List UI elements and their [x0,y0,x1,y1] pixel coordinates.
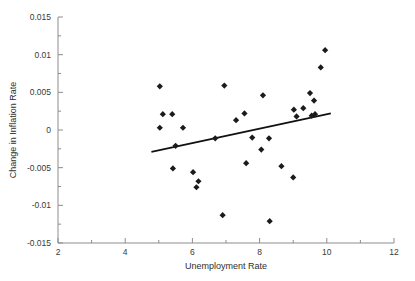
data-point-marker [241,110,247,116]
x-tick-label: 8 [257,247,262,257]
plot-canvas: 0.0150.010.0050-0.005-0.01-0.01524681012… [0,0,415,281]
data-point-marker [220,212,226,218]
data-point-marker [290,174,296,180]
data-point-marker [293,113,299,119]
data-point-marker [291,107,297,113]
data-point-marker [260,92,266,98]
data-point-marker [157,83,163,89]
axis-spines [58,17,394,243]
data-point-marker [322,47,328,53]
data-point-marker [195,178,201,184]
y-tick-label: 0 [46,125,51,135]
x-axis-title: Unemployment Rate [185,261,267,271]
y-tick-label: -0.005 [27,163,51,173]
data-point-marker [267,218,273,224]
data-point-marker [258,146,264,152]
y-tick-label: 0.015 [30,12,52,22]
y-axis-title: Change in Inflation Rate [8,82,18,179]
y-tick-label: -0.01 [32,200,52,210]
data-point-marker [278,163,284,169]
data-point-marker [193,184,199,190]
data-point-marker [212,135,218,141]
data-point-marker [160,111,166,117]
data-point-marker [170,165,176,171]
data-point-marker [157,125,163,131]
data-point-marker [190,169,196,175]
data-point-marker [243,160,249,166]
data-point-marker [266,135,272,141]
scatter-plot-figure: 0.0150.010.0050-0.005-0.01-0.01524681012… [0,0,415,281]
data-point-marker [307,90,313,96]
data-point-marker [221,82,227,88]
data-point-marker [233,117,239,123]
x-tick-label: 12 [389,247,399,257]
data-point-marker [249,134,255,140]
x-tick-label: 4 [123,247,128,257]
x-tick-label: 2 [56,247,61,257]
y-tick-label: 0.005 [30,87,52,97]
data-point-marker [169,111,175,117]
x-tick-label: 6 [190,247,195,257]
data-point-marker [318,64,324,70]
y-tick-label: -0.015 [27,238,51,248]
y-tick-label: 0.01 [34,50,51,60]
data-point-marker [311,98,317,104]
data-point-marker [180,125,186,131]
x-tick-label: 10 [322,247,332,257]
data-point-marker [300,105,306,111]
